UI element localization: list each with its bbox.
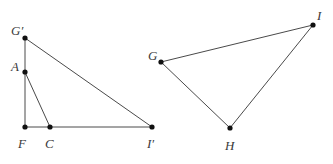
vertex-label-iprime: I′ [147,137,154,150]
seg-A-C [25,72,50,127]
vertex-point-iprime [149,124,154,129]
vertex-label-g: G [148,49,157,62]
vertex-label-f: F [18,137,26,150]
vertex-point-c [47,124,52,129]
vertex-point-g [158,59,163,64]
vertex-point-i [310,22,315,27]
vertex-point-f [22,124,27,129]
vertex-label-c: C [45,137,54,150]
vertex-label-i: I [317,9,321,22]
vertex-point-a [22,69,27,74]
seg-G-H [161,62,230,128]
segments-layer [25,25,313,128]
vertex-point-h [227,125,232,130]
geometry-figure-canvas: G′AFCI′GIH [0,0,333,164]
vertex-label-gprime: G′ [11,24,23,37]
seg-H-I [230,25,313,128]
vertex-label-a: A [11,60,19,73]
vertex-label-h: H [225,139,234,152]
seg-G-I [161,25,313,62]
